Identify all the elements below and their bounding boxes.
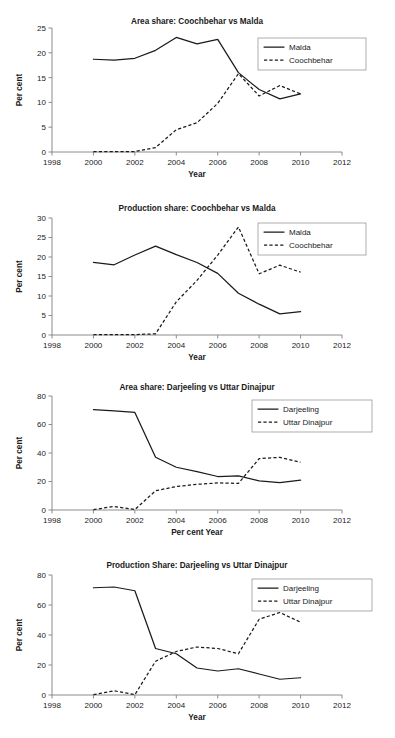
x-tick-label: 2002 bbox=[126, 516, 144, 525]
x-tick-label: 2010 bbox=[292, 158, 310, 167]
y-tick-label: 10 bbox=[37, 98, 46, 107]
y-tick-label: 20 bbox=[37, 661, 46, 670]
y-tick-label: 40 bbox=[37, 449, 46, 458]
legend-label-darjeeling: Darjeeling bbox=[283, 584, 319, 593]
x-tick-label: 2002 bbox=[126, 341, 144, 350]
y-tick-label: 25 bbox=[37, 24, 46, 33]
x-tick-label: 2008 bbox=[250, 516, 268, 525]
y-tick-label: 40 bbox=[37, 631, 46, 640]
chart-panel-3: Production Share: Darjeeling vs Uttar Di… bbox=[0, 545, 395, 738]
x-tick-label: 1998 bbox=[43, 516, 61, 525]
chart-title: Production Share: Darjeeling vs Uttar Di… bbox=[106, 561, 288, 570]
y-axis-label: Per cent bbox=[15, 619, 24, 652]
x-tick-label: 2008 bbox=[250, 158, 268, 167]
x-tick-label: 2006 bbox=[209, 341, 227, 350]
y-tick-label: 10 bbox=[37, 292, 46, 301]
x-tick-label: 2000 bbox=[85, 701, 103, 710]
x-tick-label: 1998 bbox=[43, 158, 61, 167]
y-tick-label: 20 bbox=[37, 49, 46, 58]
y-tick-label: 25 bbox=[37, 233, 46, 242]
x-axis-label: Year bbox=[188, 353, 206, 362]
x-tick-label: 2004 bbox=[167, 516, 185, 525]
x-tick-label: 2000 bbox=[85, 158, 103, 167]
y-tick-label: 0 bbox=[42, 506, 47, 515]
x-tick-label: 1998 bbox=[43, 701, 61, 710]
chart-panel-1: Production share: Coochbehar vs Malda051… bbox=[0, 190, 395, 370]
y-tick-label: 20 bbox=[37, 477, 46, 486]
x-tick-label: 2008 bbox=[250, 341, 268, 350]
y-tick-label: 0 bbox=[42, 691, 47, 700]
series-line-uttar-dinajpur bbox=[93, 457, 300, 509]
y-tick-label: 80 bbox=[37, 571, 46, 580]
x-tick-label: 2000 bbox=[85, 341, 103, 350]
y-tick-label: 5 bbox=[42, 311, 47, 320]
legend-label-uttar-dinajpur: Uttar Dinajpur bbox=[283, 597, 333, 606]
legend-label-darjeeling: Darjeeling bbox=[283, 405, 319, 414]
y-tick-label: 15 bbox=[37, 272, 46, 281]
y-tick-label: 30 bbox=[37, 214, 46, 223]
x-tick-label: 2012 bbox=[333, 701, 351, 710]
x-tick-label: 2008 bbox=[250, 701, 268, 710]
series-line-uttar-dinajpur bbox=[93, 613, 300, 695]
chart-title: Production share: Coochbehar vs Malda bbox=[119, 204, 276, 213]
y-tick-label: 0 bbox=[42, 148, 47, 157]
x-tick-label: 1998 bbox=[43, 341, 61, 350]
y-tick-label: 0 bbox=[42, 331, 47, 340]
y-tick-label: 5 bbox=[42, 123, 47, 132]
chart-production-coochbehar-malda: Production share: Coochbehar vs Malda051… bbox=[0, 190, 395, 370]
legend-label-malda: Malda bbox=[289, 43, 311, 52]
x-tick-label: 2006 bbox=[209, 158, 227, 167]
x-tick-label: 2012 bbox=[333, 158, 351, 167]
chart-area-darjeeling-uttar-dinajpur: Area share: Darjeeling vs Uttar Dinajpur… bbox=[0, 370, 395, 545]
y-tick-label: 15 bbox=[37, 74, 46, 83]
x-tick-label: 2006 bbox=[209, 701, 227, 710]
x-axis-label: Year bbox=[188, 170, 206, 179]
x-tick-label: 2012 bbox=[333, 341, 351, 350]
chart-production-darjeeling-uttar-dinajpur: Production Share: Darjeeling vs Uttar Di… bbox=[0, 545, 395, 738]
y-tick-label: 20 bbox=[37, 253, 46, 262]
chart-area-coochbehar-malda: Area share: Coochbehar vs Malda051015202… bbox=[0, 0, 395, 190]
x-tick-label: 2010 bbox=[292, 341, 310, 350]
x-tick-label: 2010 bbox=[292, 516, 310, 525]
legend-label-coochbehar: Coochbehar bbox=[289, 241, 333, 250]
figure-sheet: Area share: Coochbehar vs Malda051015202… bbox=[0, 0, 395, 738]
y-axis-label: Per cent bbox=[15, 260, 24, 293]
legend-label-uttar-dinajpur: Uttar Dinajpur bbox=[283, 418, 333, 427]
y-tick-label: 60 bbox=[37, 420, 46, 429]
y-tick-label: 60 bbox=[37, 601, 46, 610]
x-axis-label: Per cent Year bbox=[171, 528, 224, 537]
legend-box bbox=[258, 223, 366, 255]
y-axis-label: Per cent bbox=[15, 437, 24, 470]
x-tick-label: 2002 bbox=[126, 158, 144, 167]
x-tick-label: 2002 bbox=[126, 701, 144, 710]
y-axis-label: Per cent bbox=[15, 74, 24, 107]
y-tick-label: 80 bbox=[37, 392, 46, 401]
series-line-coochbehar bbox=[93, 74, 300, 152]
legend-label-malda: Malda bbox=[289, 228, 311, 237]
x-tick-label: 2004 bbox=[167, 341, 185, 350]
chart-panel-0: Area share: Coochbehar vs Malda051015202… bbox=[0, 0, 395, 190]
chart-title: Area share: Darjeeling vs Uttar Dinajpur bbox=[119, 383, 275, 392]
x-tick-label: 2000 bbox=[85, 516, 103, 525]
x-tick-label: 2006 bbox=[209, 516, 227, 525]
legend-label-coochbehar: Coochbehar bbox=[289, 56, 333, 65]
x-tick-label: 2004 bbox=[167, 158, 185, 167]
x-axis-label: Year bbox=[188, 713, 206, 722]
chart-panel-2: Area share: Darjeeling vs Uttar Dinajpur… bbox=[0, 370, 395, 545]
legend-box bbox=[258, 38, 366, 70]
chart-title: Area share: Coochbehar vs Malda bbox=[131, 17, 263, 26]
x-tick-label: 2012 bbox=[333, 516, 351, 525]
x-tick-label: 2010 bbox=[292, 701, 310, 710]
x-tick-label: 2004 bbox=[167, 701, 185, 710]
